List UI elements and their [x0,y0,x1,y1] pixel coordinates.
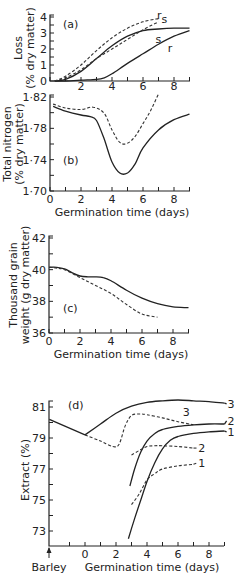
panel-label: (c) [63,302,78,315]
y-tick-label: 81 [32,401,46,414]
series-line-solid-3 [85,400,225,435]
series-label: 3 [183,406,190,419]
x-tick-label: 0 [47,193,54,206]
panel-label: (a) [63,18,78,31]
series-label-leader [225,431,227,432]
panel-d-extract-chart: 737577798102468Germination time (days)Ba… [19,398,235,574]
x-tick-label: 0 [82,548,89,561]
barley-arrow-head-icon [47,547,52,553]
series-label-leader [225,421,227,424]
series-label: 3 [228,398,235,411]
x-tick-label: 6 [140,193,147,206]
y-tick-label: 0 [40,75,47,88]
x-tick-label: 2 [113,548,120,561]
series-label: 1 [198,457,205,470]
series-label: r [157,9,162,22]
series-label: r [168,42,173,55]
panel-a-loss-chart: 012342468Loss(% dry matter)(a)srsr [12,7,190,93]
y-tick-label: 73 [32,525,46,538]
x-axis-label: Germination time (days) [54,348,189,361]
x-tick-label: 2 [77,335,84,348]
y-axis-label: weight (g dry matter) [19,226,32,345]
axis-lines [49,401,224,546]
y-tick-label: 1·82 [23,91,48,104]
series-line-solid-barley-line [49,419,85,435]
y-tick-label: 40 [32,264,46,277]
x-tick-label: 6 [175,548,182,561]
y-tick-label: 1·70 [23,185,48,198]
x-tick-label: 4 [108,335,115,348]
y-tick-label: 1 [40,59,47,72]
x-tick-label: 6 [139,335,146,348]
x-tick-label: 2 [78,80,85,93]
x-tick-label: 6 [140,80,147,93]
series-label: 2 [198,442,205,455]
x-axis-label: Germination time (days) [85,561,220,574]
x-axis-label: Germination time (days) [55,206,190,219]
x-tick-label: 8 [171,80,178,93]
barley-label: Barley [31,561,67,574]
panel-c-thousand-grain-weight-chart: 3638404202468Germination time (days)Thou… [7,226,189,361]
x-tick-label: 4 [109,80,116,93]
y-tick-label: 42 [32,232,46,245]
panel-b-total-nitrogen-chart: 1·701·741·781·8202468Germination time (d… [1,91,190,219]
axis-lines [49,236,189,333]
y-tick-label: 36 [32,327,46,340]
y-axis-label: (% dry matter) [24,7,37,88]
y-tick-label: 1·74 [23,154,48,167]
series-label-leader [194,463,198,465]
series-label-leader [225,403,227,404]
x-tick-label: 4 [144,548,151,561]
y-tick-label: 2 [40,43,47,56]
series-label: 1 [228,426,235,439]
x-tick-label: 8 [170,335,177,348]
x-tick-label: 4 [109,193,116,206]
panel-label: (b) [63,154,79,167]
y-axis-label: Extract (%) [19,439,32,501]
y-tick-label: 77 [32,463,46,476]
y-tick-label: 38 [32,295,46,308]
x-tick-label: 8 [206,548,213,561]
series-line-solid-2 [130,424,225,486]
y-tick-label: 79 [32,432,46,445]
figure-panels: 012342468Loss(% dry matter)(a)srsr 1·701… [0,0,238,576]
y-tick-label: 4 [40,11,47,24]
y-axis-label: (% dry matter) [13,103,26,184]
x-tick-label: 0 [46,335,53,348]
panel-label: (d) [68,399,84,412]
y-tick-label: 75 [32,494,46,507]
x-tick-label: 2 [78,193,85,206]
y-tick-label: 1·78 [23,122,48,135]
x-tick-label: 8 [171,193,178,206]
series-line-dashed-dashed [53,94,158,144]
series-label: s [162,13,168,26]
series-line-dashed-3 [85,414,194,447]
y-tick-label: 3 [40,27,47,40]
